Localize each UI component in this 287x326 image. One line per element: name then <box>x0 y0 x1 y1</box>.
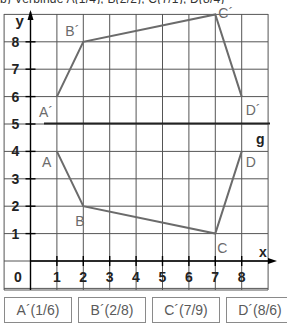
svg-text:2: 2 <box>12 198 20 214</box>
point-label: B´ <box>65 23 79 39</box>
point-label: D´ <box>246 102 261 118</box>
svg-text:7: 7 <box>211 269 219 285</box>
svg-text:4: 4 <box>12 143 20 159</box>
svg-text:3: 3 <box>106 269 114 285</box>
mirror-line-g: g <box>44 124 270 147</box>
svg-text:g: g <box>256 131 265 147</box>
y-axis-arrow-icon <box>28 10 34 20</box>
svg-text:7: 7 <box>12 61 20 77</box>
point-label: A´ <box>39 104 53 120</box>
svg-text:5: 5 <box>12 116 20 132</box>
svg-text:0: 0 <box>14 269 22 285</box>
svg-text:8: 8 <box>12 34 20 50</box>
coordinate-grid: yx01234567812345678 g ABCDA´B´C´D´ <box>0 0 287 295</box>
svg-text:1: 1 <box>53 269 61 285</box>
axes: yx01234567812345678 <box>12 10 277 290</box>
point-label: C´ <box>218 5 233 21</box>
answer-box-a-prime: A´(1/6) <box>4 297 72 323</box>
answer-box-c-prime: C´(7/9) <box>152 297 220 323</box>
x-axis-arrow-icon <box>268 258 277 264</box>
point-labels: ABCDA´B´C´D´ <box>39 5 261 255</box>
quad-abcd-prime <box>57 14 242 96</box>
svg-text:x: x <box>259 244 267 260</box>
svg-text:8: 8 <box>238 269 246 285</box>
answer-box-b-prime: B´(2/8) <box>78 297 146 323</box>
point-label: C <box>217 240 227 256</box>
svg-text:4: 4 <box>132 269 140 285</box>
point-label: A <box>42 154 52 170</box>
svg-text:6: 6 <box>12 89 20 105</box>
point-label: D <box>246 154 256 170</box>
svg-text:5: 5 <box>159 269 167 285</box>
answer-box-d-prime: D´(8/6) <box>226 297 287 323</box>
svg-text:y: y <box>16 12 25 29</box>
svg-text:3: 3 <box>12 171 20 187</box>
svg-text:2: 2 <box>79 269 87 285</box>
svg-text:1: 1 <box>12 226 20 242</box>
point-label: B <box>75 213 84 229</box>
svg-text:6: 6 <box>185 269 193 285</box>
